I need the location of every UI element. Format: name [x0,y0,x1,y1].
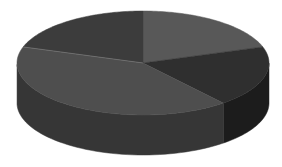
pie-top-faces [17,11,269,115]
pie-chart-canvas [0,0,282,167]
pie-chart [0,0,282,167]
